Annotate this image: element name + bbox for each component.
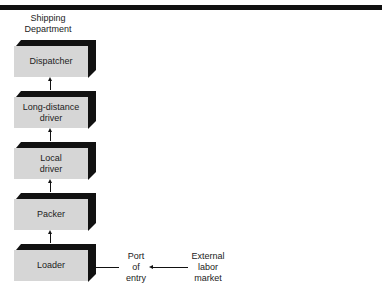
box-label: Loader: [14, 250, 88, 281]
box-packer: Packer: [12, 193, 96, 231]
arrow-left-icon: [95, 267, 119, 268]
box-loader: Loader: [12, 244, 96, 282]
box-side-bevel: [88, 193, 96, 231]
box-side-bevel: [88, 91, 96, 129]
box-side-bevel: [88, 244, 96, 282]
arrow-up-icon: [50, 182, 51, 192]
department-label: Shipping Department: [8, 13, 88, 35]
box-label: Dispatcher: [14, 46, 88, 77]
box-side-bevel: [88, 40, 96, 78]
top-rule: [0, 5, 382, 10]
arrow-up-icon: [50, 233, 51, 243]
port-of-entry-label: Port of entry: [120, 251, 152, 284]
external-labor-market-label: External labor market: [186, 251, 230, 284]
box-side-bevel: [88, 142, 96, 180]
box-label: Long-distance driver: [14, 97, 88, 128]
arrow-up-icon: [50, 131, 51, 141]
box-label: Packer: [14, 199, 88, 230]
arrow-up-icon: [50, 80, 51, 90]
box-long-distance-driver: Long-distance driver: [12, 91, 96, 129]
box-label: Local driver: [14, 148, 88, 179]
box-local-driver: Local driver: [12, 142, 96, 180]
arrow-left-icon: [152, 267, 188, 268]
box-dispatcher: Dispatcher: [12, 40, 96, 78]
